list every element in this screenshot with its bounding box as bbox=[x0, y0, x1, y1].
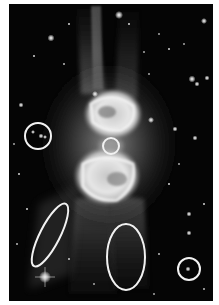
nebula-image: Grayscale astronomical image of a bipola… bbox=[9, 4, 213, 301]
nebula-canvas bbox=[9, 4, 213, 301]
